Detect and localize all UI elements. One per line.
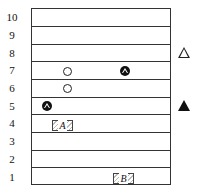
row-label-5: 5 — [0, 100, 24, 112]
box-a: A — [52, 120, 73, 131]
grid-line — [32, 132, 170, 133]
row-label-1: 1 — [0, 171, 24, 183]
open-circle-icon — [63, 67, 72, 76]
grid-line — [32, 114, 170, 115]
box-b: B — [113, 173, 134, 184]
circled-triangle-icon — [42, 101, 52, 111]
grid-line — [32, 97, 170, 98]
open-circle-icon — [63, 84, 72, 93]
filled-triangle-icon — [178, 100, 190, 111]
diagram: 10 9 8 7 6 5 4 3 2 1 A B — [0, 0, 197, 196]
row-label-8: 8 — [0, 47, 24, 59]
circled-triangle-icon — [120, 66, 130, 76]
grid-line — [32, 26, 170, 27]
grid — [31, 8, 171, 185]
row-label-6: 6 — [0, 82, 24, 94]
box-a-label: A — [58, 120, 66, 131]
row-label-2: 2 — [0, 153, 24, 165]
row-label-3: 3 — [0, 135, 24, 147]
grid-line — [32, 79, 170, 80]
grid-line — [32, 44, 170, 45]
grid-line — [32, 61, 170, 62]
row-label-7: 7 — [0, 64, 24, 76]
row-label-10: 10 — [0, 11, 24, 23]
row-label-4: 4 — [0, 117, 24, 129]
box-b-label: B — [119, 173, 127, 184]
grid-line — [32, 150, 170, 151]
open-triangle-icon — [178, 47, 190, 58]
grid-line — [32, 167, 170, 168]
row-label-9: 9 — [0, 29, 24, 41]
